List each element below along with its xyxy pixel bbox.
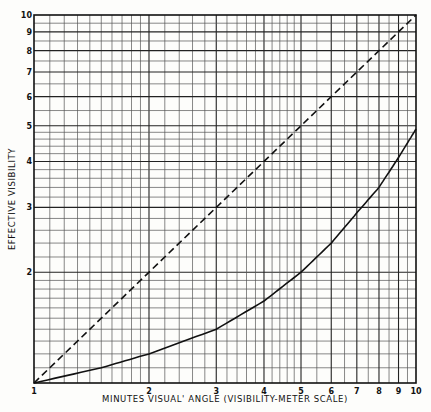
y-tick-label: 8 [26,47,32,56]
y-tick-label: 6 [26,93,32,102]
x-tick-label: 9 [396,387,402,396]
x-tick-label: 1 [31,387,37,396]
y-tick-label: 10 [21,11,33,20]
y-axis-label: EFFECTIVE VISIBILITY [7,148,17,250]
dashed-reference-line [34,15,416,383]
x-tick-label: 7 [354,387,360,396]
y-tick-label: 7 [26,68,32,77]
y-tick-labels: 2345678910 [21,11,33,277]
y-tick-label: 4 [26,157,32,166]
x-tick-label: 10 [410,387,422,396]
y-tick-label: 9 [26,28,32,37]
solid-visibility-curve [34,129,416,383]
data-series [34,15,416,383]
y-tick-label: 2 [26,268,32,277]
y-tick-label: 3 [26,203,32,212]
y-tick-label: 5 [26,122,32,131]
x-axis-label: MINUTES VISUAL' ANGLE (VISIBILITY-METER … [102,394,348,404]
x-tick-label: 8 [376,387,382,396]
visibility-chart: 12345678910 2345678910 MINUTES VISUAL' A… [0,0,431,412]
